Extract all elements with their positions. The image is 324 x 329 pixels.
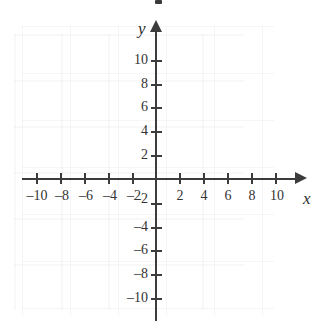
y-axis-tick bbox=[151, 155, 162, 157]
y-axis-tick-label: –8 bbox=[134, 267, 148, 281]
y-axis-label: y bbox=[138, 20, 146, 37]
x-axis-arrow-icon bbox=[295, 172, 307, 184]
x-axis-tick-label: –4 bbox=[103, 189, 117, 203]
y-axis-tick bbox=[151, 203, 162, 205]
y-axis-tick bbox=[151, 250, 162, 252]
y-axis-tick-label: –4 bbox=[134, 220, 148, 234]
y-axis-tick bbox=[151, 84, 162, 86]
y-axis-tick bbox=[151, 298, 162, 300]
y-axis-tick-label: –10 bbox=[127, 291, 148, 305]
x-axis-tick-label: –10 bbox=[27, 189, 48, 203]
y-axis-tick-label: –2 bbox=[134, 192, 148, 206]
x-axis-tick-label: –6 bbox=[79, 189, 93, 203]
x-axis-tick-label: 8 bbox=[249, 189, 256, 203]
background-scan-grid bbox=[22, 26, 274, 316]
x-axis-tick bbox=[60, 173, 62, 184]
x-axis-tick-label: –8 bbox=[55, 189, 69, 203]
x-axis-tick bbox=[84, 173, 86, 184]
y-axis-tick-label: 10 bbox=[134, 53, 148, 67]
y-axis-tick bbox=[151, 227, 162, 229]
x-axis-tick-label: 10 bbox=[270, 189, 284, 203]
x-axis-tick bbox=[203, 173, 205, 184]
y-axis-tick-label: 8 bbox=[141, 77, 148, 91]
coordinate-plane-figure: –10 –8 –6 –4 –2 2 4 6 8 10 10 8 6 4 2 –2… bbox=[0, 0, 324, 329]
y-axis-tick bbox=[151, 131, 162, 133]
y-axis-tick-label: 2 bbox=[141, 148, 148, 162]
y-axis-tick-label: –6 bbox=[134, 243, 148, 257]
y-axis-tick-label: 6 bbox=[141, 100, 148, 114]
x-axis-tick bbox=[251, 173, 253, 184]
y-axis-tick-label: 4 bbox=[141, 124, 148, 138]
y-axis-line bbox=[155, 31, 157, 321]
x-axis-tick bbox=[132, 173, 134, 184]
y-axis-tick bbox=[151, 107, 162, 109]
x-axis-tick bbox=[275, 173, 277, 184]
top-edge-speck-artifact bbox=[155, 0, 162, 4]
x-axis-label: x bbox=[303, 190, 311, 207]
x-axis-tick bbox=[227, 173, 229, 184]
x-axis-tick-label: 6 bbox=[225, 189, 232, 203]
x-axis-tick-label: 4 bbox=[201, 189, 208, 203]
x-axis-tick bbox=[108, 173, 110, 184]
y-axis-tick bbox=[151, 60, 162, 62]
x-axis-tick bbox=[36, 173, 38, 184]
y-axis-arrow-icon bbox=[150, 20, 162, 32]
x-axis-line bbox=[22, 178, 297, 180]
y-axis-tick bbox=[151, 274, 162, 276]
background-scan-grid-secondary bbox=[14, 34, 244, 310]
x-axis-tick-label: 2 bbox=[177, 189, 184, 203]
x-axis-tick bbox=[179, 173, 181, 184]
